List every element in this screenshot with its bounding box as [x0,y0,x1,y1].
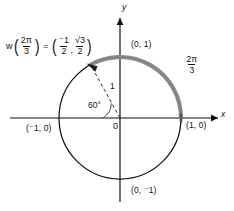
y-axis-arrowhead [117,18,124,25]
arc-measure-label: 2π 3 [185,55,199,74]
radius-length-label: 1 [110,82,115,91]
open-paren-2: ( [52,37,57,54]
arc-denominator: 3 [188,64,195,74]
point-x-numerator: ⁻1 [58,36,70,46]
y-axis-label: y [122,3,126,12]
angle-arc [103,103,111,118]
angle-measure-label: 60° [88,101,101,110]
point-label-right: (1, 0) [186,121,206,130]
argument-denominator: 3 [23,46,30,57]
coordinate-comma: , [70,46,73,56]
highlighted-arc [90,57,182,118]
point-y-fraction: √3 2 [74,36,86,56]
arc-numerator: 2π [186,55,199,64]
arc-fraction: 2π 3 [186,55,199,74]
x-axis-arrowhead [211,115,218,122]
close-paren-1: ) [34,37,39,54]
highlighted-arc-edge [90,57,182,118]
point-x-fraction: ⁻1 2 [58,36,70,56]
point-y-denominator: 2 [76,46,83,57]
argument-numerator: 2π [20,36,33,46]
figure-canvas [0,0,234,211]
point-label-bottom: (0, ⁻1) [131,186,157,195]
point-x-denominator: 2 [60,46,67,57]
equation-label: w ( 2π 3 ) = ( ⁻1 2 , √3 2 ) [6,36,93,56]
argument-fraction: 2π 3 [20,36,33,56]
point-y-numerator: √3 [74,36,86,46]
x-axis-label: x [221,110,225,119]
origin-label: 0 [113,122,118,131]
equals-sign: = [43,42,48,51]
open-paren-1: ( [14,37,19,54]
close-paren-2: ) [87,37,92,54]
dashed-radius-line [92,68,120,119]
unit-circle-figure: w ( 2π 3 ) = ( ⁻1 2 , √3 2 ) 2π 3 [0,0,234,211]
point-label-top: (0, 1) [131,40,151,49]
point-label-left: (⁻1, 0) [26,124,52,133]
function-symbol: w [6,42,13,51]
